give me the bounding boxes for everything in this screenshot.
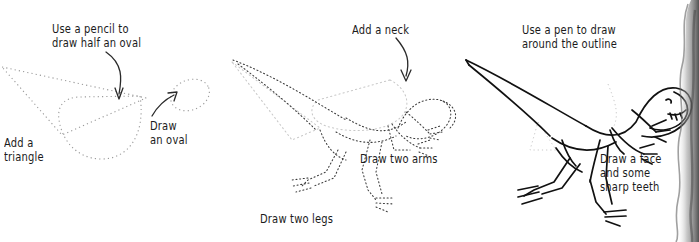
arrow-to-neck-icon bbox=[396, 38, 411, 81]
foot-far-claw-a bbox=[604, 210, 626, 212]
guide-half-oval bbox=[312, 80, 407, 131]
leg-near bbox=[302, 150, 338, 186]
caption-add-a-neck: Add a neck bbox=[352, 23, 409, 37]
half-oval-body-shape bbox=[59, 96, 141, 159]
caption-draw-two-legs: Draw two legs bbox=[260, 212, 333, 226]
triangle-tail-shape bbox=[2, 67, 146, 135]
panel-step-3: Use a pen to draw around the outline Dra… bbox=[460, 0, 699, 242]
tail-lower bbox=[238, 64, 316, 130]
foot-far-c bbox=[376, 207, 388, 212]
tutorial-page: Use a pencil to draw half an oval Add a … bbox=[0, 0, 699, 242]
leftover-guide-neck bbox=[608, 84, 616, 130]
caption-draw-an-oval: Draw an oval bbox=[150, 119, 188, 147]
caption-use-a-pencil: Use a pencil to draw half an oval bbox=[52, 22, 141, 50]
panel-step-1: Use a pencil to draw half an oval Add a … bbox=[0, 0, 233, 242]
tail-outline-top bbox=[466, 60, 586, 126]
foot-near-c bbox=[296, 188, 311, 192]
back-outline bbox=[586, 88, 692, 137]
arrow-to-oval-icon bbox=[152, 92, 177, 116]
arm-upper-claws bbox=[428, 126, 442, 140]
foot-near-claw-c bbox=[522, 198, 542, 204]
panel-step-2: Add a neck Draw two arms Draw two legs bbox=[230, 0, 470, 242]
arm-lower-outline bbox=[612, 128, 644, 154]
caption-use-a-pen: Use a pen to draw around the outline bbox=[522, 23, 617, 51]
arm-upper bbox=[406, 112, 430, 134]
caption-draw-a-face: Draw a face and some sharp teeth bbox=[600, 152, 662, 194]
leg-near-2 bbox=[314, 152, 346, 186]
leftover-guide-hip bbox=[530, 122, 556, 150]
belly-line bbox=[336, 132, 396, 142]
leg-far-2 bbox=[376, 142, 382, 194]
foot-near-b bbox=[293, 183, 309, 186]
neck-curve bbox=[398, 99, 451, 139]
caption-draw-two-arms: Draw two arms bbox=[360, 152, 438, 166]
foot-far-b bbox=[376, 203, 394, 204]
guide-triangle bbox=[232, 62, 320, 140]
tail-upper bbox=[233, 60, 346, 120]
foot-near-a bbox=[292, 178, 308, 180]
head-snout bbox=[443, 101, 456, 128]
hip-line bbox=[320, 130, 346, 160]
leg-far bbox=[362, 140, 376, 200]
eye bbox=[666, 99, 671, 103]
foot-far-claw-c bbox=[606, 221, 620, 226]
thigh-far bbox=[590, 140, 600, 182]
tail-outline-bottom bbox=[469, 65, 550, 136]
caption-add-a-triangle: Add a triangle bbox=[4, 136, 44, 164]
leg-near-outline bbox=[524, 158, 570, 196]
foot-far-claw-b bbox=[605, 216, 626, 217]
panel-2-artwork bbox=[230, 0, 470, 242]
hip-crease bbox=[562, 140, 576, 166]
